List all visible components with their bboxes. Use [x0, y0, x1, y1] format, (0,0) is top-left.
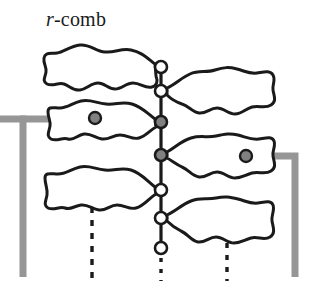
inner-node-mid-right	[240, 150, 252, 162]
figure-caption: r-comb	[46, 8, 106, 31]
spine-node-6	[155, 212, 167, 224]
spine-node-2	[155, 85, 167, 97]
spine-node-3	[155, 116, 167, 128]
r-comb-figure: r-comb	[0, 0, 319, 298]
blob-upper-right	[167, 68, 275, 114]
comb-diagram-canvas	[0, 0, 319, 298]
blob-mid-right	[167, 134, 275, 178]
blob-top-left	[44, 45, 157, 90]
blob-mid-left	[48, 100, 156, 140]
highlight-path-left	[0, 119, 23, 277]
spine-nodes-group	[155, 61, 167, 254]
figure-caption-text: -comb	[54, 8, 106, 30]
inner-node-mid-left	[89, 112, 101, 124]
blob-lower-left	[45, 166, 156, 210]
blob-lower-right	[167, 197, 274, 243]
spine-node-7	[155, 242, 167, 254]
spine-node-1	[155, 61, 167, 73]
figure-caption-variable: r	[46, 8, 54, 30]
spine-node-5	[155, 184, 167, 196]
spine-node-4	[155, 149, 167, 161]
